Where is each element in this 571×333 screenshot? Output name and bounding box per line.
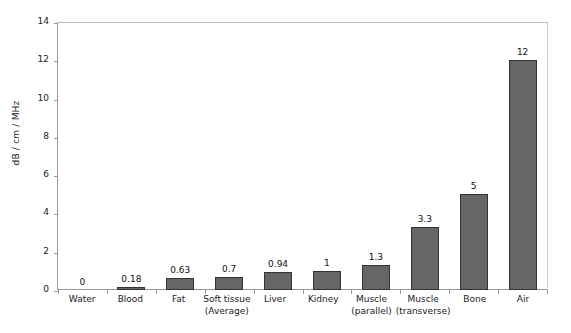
x-axis-label: Soft tissue(Average) (203, 294, 251, 317)
y-tick-label: 2 (43, 246, 49, 256)
x-axis-label: Kidney (299, 294, 347, 317)
bar-category: 0.18 (107, 22, 156, 290)
x-axis-labels: WaterBloodFatSoft tissue(Average)LiverKi… (58, 294, 547, 317)
bar[interactable] (215, 277, 243, 290)
y-tick-label: 8 (43, 131, 49, 141)
x-axis-label-line1: Liver (264, 294, 286, 304)
x-axis-label-line1: Muscle (356, 294, 387, 304)
x-axis-label-line1: Bone (463, 294, 486, 304)
x-axis-label-line1: Air (517, 294, 529, 304)
bar-value-label: 1.3 (351, 252, 400, 262)
y-tick-label: 12 (38, 54, 49, 64)
bar-category: 0.94 (254, 22, 303, 290)
bar-category: 1 (303, 22, 352, 290)
x-axis-label-line1: Muscle (408, 294, 439, 304)
x-tick-mark (547, 290, 548, 294)
y-axis-title: dB / cm / MHz (11, 73, 21, 193)
x-axis-label: Blood (106, 294, 154, 317)
bar[interactable] (166, 278, 194, 290)
bar[interactable] (313, 271, 341, 290)
y-tick-label: 4 (43, 207, 49, 217)
bar-value-label: 0.18 (107, 274, 156, 284)
y-tick-label: 14 (38, 16, 49, 26)
x-axis-label-line1: Soft tissue (203, 294, 250, 304)
x-axis-label: Muscle(transverse) (396, 294, 451, 317)
y-tick-label: 0 (43, 284, 49, 294)
bar-category: 12 (498, 22, 547, 290)
x-axis-label-line1: Fat (172, 294, 185, 304)
x-axis-label-line1: Water (69, 294, 96, 304)
bar-value-label: 3.3 (400, 214, 449, 224)
bar-series: 00.180.630.70.9411.33.3512 (58, 22, 547, 290)
bar[interactable] (264, 272, 292, 290)
bar[interactable] (117, 287, 145, 290)
bar-category: 1.3 (351, 22, 400, 290)
x-axis-label: Liver (251, 294, 299, 317)
bar-value-label: 0.63 (156, 265, 205, 275)
attenuation-bar-chart: dB / cm / MHz 14121086420 00.180.630.70.… (0, 0, 571, 333)
x-axis-label: Muscle(parallel) (347, 294, 395, 317)
bar-category: 0 (58, 22, 107, 290)
x-axis-label: Bone (451, 294, 499, 317)
bar-value-label: 5 (449, 181, 498, 191)
x-axis-label: Fat (154, 294, 202, 317)
x-axis-label-line2: (parallel) (347, 306, 395, 318)
bar-value-label: 12 (498, 47, 547, 57)
x-axis-label-line2: (transverse) (396, 306, 451, 318)
x-axis-label-line1: Blood (118, 294, 143, 304)
x-axis-label-line1: Kidney (308, 294, 339, 304)
bar-category: 3.3 (400, 22, 449, 290)
bar-value-label: 0 (58, 277, 107, 287)
y-tick-label: 6 (43, 169, 49, 179)
bar[interactable] (460, 194, 488, 290)
x-axis-label: Air (499, 294, 547, 317)
bar-value-label: 0.94 (254, 259, 303, 269)
x-axis-label: Water (58, 294, 106, 317)
y-tick-label: 10 (38, 93, 49, 103)
x-axis-label-line2: (Average) (203, 306, 251, 318)
bar-category: 0.7 (205, 22, 254, 290)
bar-category: 5 (449, 22, 498, 290)
bar[interactable] (362, 265, 390, 290)
bar-category: 0.63 (156, 22, 205, 290)
bar-value-label: 1 (303, 258, 352, 268)
bar[interactable] (411, 227, 439, 290)
bar[interactable] (509, 60, 537, 290)
bar-value-label: 0.7 (205, 264, 254, 274)
